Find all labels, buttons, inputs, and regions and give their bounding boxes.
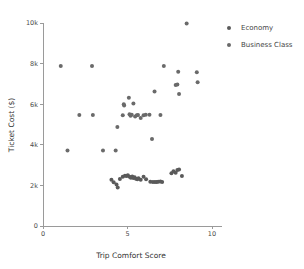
plot-area: 02k4k6k8k10k0510 EconomyBusiness Class T… bbox=[0, 0, 304, 269]
legend-item-business-class[interactable]: Business Class bbox=[227, 41, 293, 49]
data-point bbox=[162, 64, 166, 68]
data-point bbox=[185, 21, 189, 25]
y-tick-label: 10k bbox=[26, 19, 38, 27]
legend-label: Economy bbox=[241, 24, 273, 32]
x-tick-label: 10 bbox=[208, 230, 216, 238]
data-point bbox=[136, 113, 140, 117]
data-point bbox=[144, 113, 148, 117]
data-point bbox=[180, 174, 184, 178]
x-tick-label: 5 bbox=[125, 230, 129, 238]
data-point bbox=[91, 113, 95, 117]
y-tick-label: 2k bbox=[30, 182, 38, 190]
data-point bbox=[176, 70, 180, 74]
data-point bbox=[175, 83, 179, 87]
data-point bbox=[121, 113, 125, 117]
data-point bbox=[150, 137, 154, 141]
data-points bbox=[59, 21, 200, 189]
data-point bbox=[147, 113, 151, 117]
data-point bbox=[122, 104, 126, 108]
data-point bbox=[195, 70, 199, 74]
data-point bbox=[158, 113, 162, 117]
data-point bbox=[90, 64, 94, 68]
data-point bbox=[114, 148, 118, 152]
legend[interactable]: EconomyBusiness Class bbox=[227, 24, 293, 49]
legend-marker-icon bbox=[227, 26, 231, 30]
legend-marker-icon bbox=[227, 43, 231, 47]
y-axis-title: Ticket Cost ($) bbox=[7, 98, 16, 153]
y-tick-label: 6k bbox=[30, 101, 38, 109]
legend-label: Business Class bbox=[241, 41, 293, 49]
series-business-class bbox=[59, 21, 200, 152]
data-point bbox=[131, 102, 135, 106]
data-point bbox=[66, 148, 70, 152]
data-point bbox=[177, 168, 181, 172]
data-point bbox=[177, 92, 181, 96]
x-tick-label: 0 bbox=[41, 230, 45, 238]
data-point bbox=[116, 185, 120, 189]
data-point bbox=[144, 177, 148, 181]
scatter-chart: 02k4k6k8k10k0510 EconomyBusiness Class T… bbox=[0, 0, 304, 269]
axes: 02k4k6k8k10k0510 bbox=[26, 19, 222, 238]
y-tick-label: 8k bbox=[30, 60, 38, 68]
series-economy bbox=[109, 168, 183, 190]
data-point bbox=[196, 80, 200, 84]
data-point bbox=[139, 178, 143, 182]
data-point bbox=[115, 125, 119, 129]
y-tick-label: 0 bbox=[34, 222, 38, 230]
data-point bbox=[160, 180, 164, 184]
data-point bbox=[77, 113, 81, 117]
data-point bbox=[139, 116, 143, 120]
legend-item-economy[interactable]: Economy bbox=[227, 24, 273, 32]
data-point bbox=[153, 90, 157, 94]
data-point bbox=[101, 148, 105, 152]
x-axis-title: Trip Comfort Score bbox=[95, 251, 166, 260]
y-tick-label: 4k bbox=[30, 141, 38, 149]
data-point bbox=[127, 96, 131, 100]
data-point bbox=[59, 64, 63, 68]
